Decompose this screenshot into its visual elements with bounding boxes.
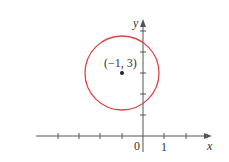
y-axis-arrow-icon [140,19,146,27]
center-point [120,71,124,75]
x-axis-label: x [207,140,212,152]
circle-diagram: (−1, 3) y x 0 1 [0,0,229,162]
diagram-canvas [0,0,229,162]
origin-label: 0 [134,140,140,152]
y-axis-label: y [133,17,138,29]
center-label: (−1, 3) [104,57,137,69]
x-tick-label-1: 1 [161,141,167,153]
